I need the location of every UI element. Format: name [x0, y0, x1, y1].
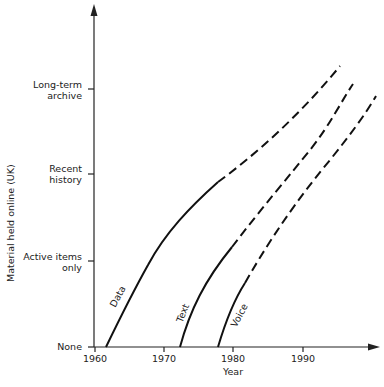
y-tick-long-term-archive: Long-termarchive	[20, 79, 82, 101]
x-tick-1960: 1960	[75, 353, 115, 364]
series-data-solid	[106, 182, 218, 347]
series-text-solid	[180, 247, 232, 347]
chart-canvas	[0, 0, 384, 387]
x-axis-title: Year	[213, 366, 253, 377]
y-tick-none: None	[20, 341, 82, 352]
y-axis-title: Material held online (UK)	[5, 164, 16, 282]
y-tick-active-items: Active itemsonly	[14, 251, 82, 273]
series-voice-dashed	[245, 96, 376, 283]
x-tick-1980: 1980	[213, 353, 253, 364]
series-text-dashed	[232, 84, 353, 247]
x-tick-1970: 1970	[144, 353, 184, 364]
series-data-dashed	[218, 66, 340, 182]
y-tick-recent-history: Recenthistory	[20, 163, 82, 185]
x-axis-arrow-icon	[368, 344, 380, 351]
y-axis-arrow-icon	[91, 4, 98, 16]
x-tick-1990: 1990	[283, 353, 323, 364]
